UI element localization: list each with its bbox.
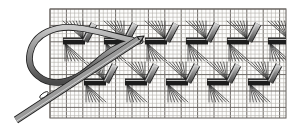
stitch-bar — [125, 80, 147, 82]
stitch-bar — [227, 39, 249, 41]
stitch-diagram-figure — [0, 0, 297, 128]
stitch-bar — [166, 80, 188, 82]
stitch-bar — [248, 80, 270, 82]
stitch-diagram-canvas — [0, 0, 297, 128]
stitch-bar — [63, 39, 85, 41]
stitch-bar — [84, 80, 106, 82]
stitch-bar — [207, 80, 229, 82]
stitch-bar — [145, 39, 167, 41]
stitch-bar — [186, 39, 208, 41]
